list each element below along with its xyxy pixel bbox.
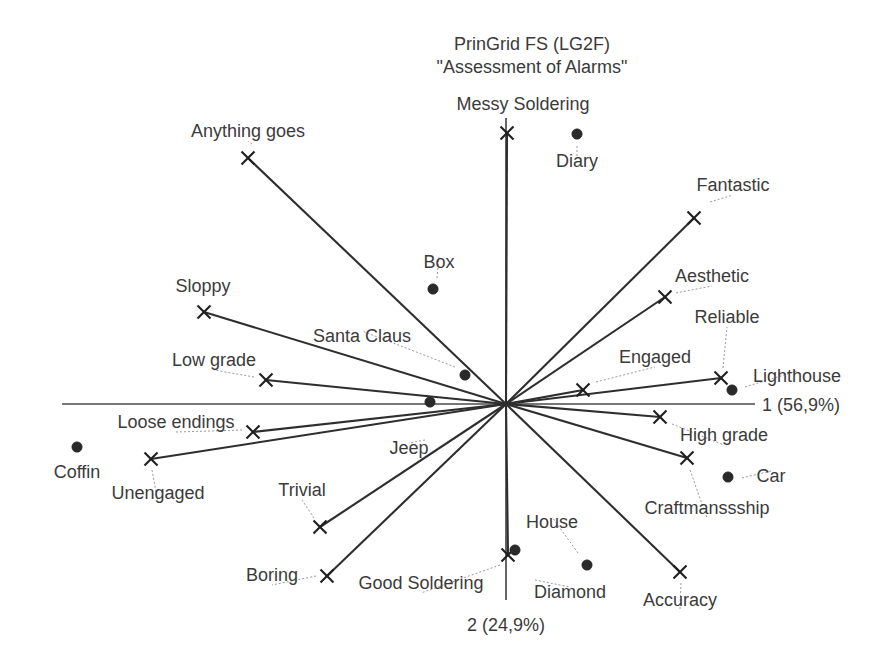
pringrid-biplot: PrinGrid FS (LG2F) "Assessment of Alarms… xyxy=(0,0,889,660)
construct-marker xyxy=(314,521,327,534)
construct-label: Unengaged xyxy=(111,483,204,503)
construct-line xyxy=(506,133,507,404)
construct-leader-line xyxy=(214,370,254,377)
construct-label: Loose endings xyxy=(117,412,234,432)
construct-line xyxy=(253,404,506,432)
construct-label: Fantastic xyxy=(696,175,769,195)
construct-marker xyxy=(198,306,211,319)
element-label: Coffin xyxy=(54,462,101,482)
element-label: Jeep xyxy=(389,438,428,458)
construct-line xyxy=(506,218,694,404)
construct-marker xyxy=(242,152,255,165)
construct-line xyxy=(327,404,506,576)
construct-marker xyxy=(688,212,701,225)
element-label: Diary xyxy=(556,151,598,171)
element-label: Santa Claus xyxy=(313,326,411,346)
element-marker xyxy=(582,560,592,570)
element-marker xyxy=(72,442,82,452)
construct-label: Trivial xyxy=(278,480,325,500)
construct-label: Good Soldering xyxy=(358,573,483,593)
construct-leader-line xyxy=(248,141,252,144)
construct-leader-line xyxy=(723,327,727,368)
element-label: Lighthouse xyxy=(753,366,841,386)
element-marker xyxy=(460,370,470,380)
construct-marker xyxy=(681,452,694,465)
element-marker xyxy=(572,129,582,139)
chart-title: PrinGrid FS (LG2F) "Assessment of Alarms… xyxy=(437,34,628,77)
construct-label: Craftmanssship xyxy=(644,498,769,518)
construct-label: Boring xyxy=(246,565,298,585)
y-axis-label: 2 (24,9%) xyxy=(467,615,545,635)
construct-marker xyxy=(659,291,672,304)
construct-label: High grade xyxy=(680,425,768,445)
element-label: House xyxy=(526,512,578,532)
element-marker xyxy=(425,397,435,407)
element-marker xyxy=(723,472,733,482)
element-marker xyxy=(727,385,737,395)
construct-marker xyxy=(321,570,334,583)
construct-label: Reliable xyxy=(694,307,759,327)
construct-line xyxy=(248,158,506,404)
element-label: Diamond xyxy=(534,582,606,602)
construct-label: Sloppy xyxy=(175,276,230,296)
construct-leader-line xyxy=(302,500,314,518)
construct-label: Engaged xyxy=(619,347,691,367)
element-label: Box xyxy=(423,252,454,272)
element-marker xyxy=(510,545,520,555)
element-marker xyxy=(428,284,438,294)
title-line-2: "Assessment of Alarms" xyxy=(437,57,628,77)
x-axis-label: 1 (56,9%) xyxy=(762,395,840,415)
construct-label: Accuracy xyxy=(643,590,717,610)
construct-leader-line xyxy=(710,195,733,202)
biplot-canvas: PrinGrid FS (LG2F) "Assessment of Alarms… xyxy=(0,0,889,660)
construct-marker xyxy=(674,566,687,579)
point-labels: Messy SolderingAnything goesFantasticSlo… xyxy=(54,94,841,610)
title-line-1: PrinGrid FS (LG2F) xyxy=(454,34,610,54)
construct-label: Aesthetic xyxy=(675,266,749,286)
construct-label: Low grade xyxy=(172,350,256,370)
construct-label: Anything goes xyxy=(191,121,305,141)
construct-leader-line xyxy=(596,367,655,382)
construct-leader-line xyxy=(676,286,712,293)
construct-label: Messy Soldering xyxy=(456,94,589,114)
element-label: Car xyxy=(756,466,785,486)
